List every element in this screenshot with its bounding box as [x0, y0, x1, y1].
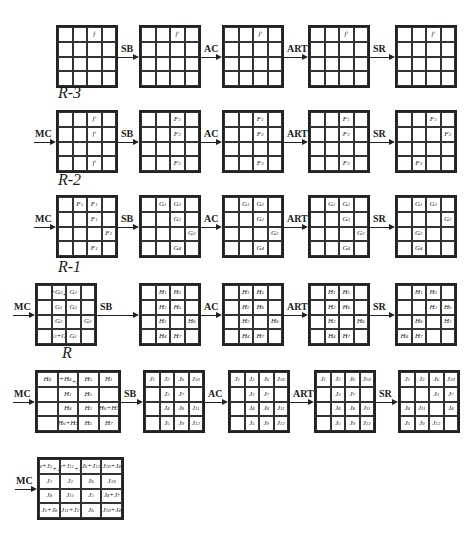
state-cell — [253, 42, 268, 57]
state-cell: F3 — [339, 156, 354, 171]
state-cell: f' — [87, 156, 102, 171]
state-cell — [185, 112, 200, 127]
state-cell — [310, 329, 325, 344]
state-cell — [102, 57, 117, 72]
state-matrix: H4H7+H8 +H3H5H1H1H5H8H2H6+H3H6+H2H5H7 — [35, 370, 121, 433]
state-cell — [310, 57, 325, 72]
state-cell — [310, 27, 325, 42]
state-matrix: f'f'f' — [56, 110, 118, 173]
state-cell — [239, 71, 254, 86]
state-cell: J4 — [245, 402, 260, 417]
state-cell: F3 — [170, 156, 185, 171]
state-cell — [412, 212, 427, 227]
state-cell — [397, 127, 412, 142]
state-cell: G2 — [339, 197, 354, 212]
state-cell — [141, 127, 156, 142]
state-cell — [268, 300, 283, 315]
state-cell — [145, 416, 160, 431]
state-cell — [325, 42, 340, 57]
operation-label-ac: AC — [208, 388, 222, 399]
state-cell: H8 — [58, 402, 79, 417]
state-cell — [87, 71, 102, 86]
transition-arrow — [118, 142, 134, 144]
state-cell: G3 — [52, 315, 67, 330]
state-cell: J5 — [160, 416, 175, 431]
state-cell: J11+J2 — [60, 503, 81, 518]
state-cell: F1 — [253, 112, 268, 127]
state-cell: H2 — [426, 300, 441, 315]
state-cell — [441, 197, 456, 212]
state-cell — [141, 241, 156, 256]
state-cell — [185, 300, 200, 315]
state-cell — [274, 387, 289, 402]
state-cell — [316, 416, 331, 431]
state-cell — [441, 285, 456, 300]
state-cell — [185, 27, 200, 42]
state-cell — [37, 315, 52, 330]
state-cell — [400, 387, 415, 402]
state-cell — [37, 416, 58, 431]
transition-arrow — [121, 402, 138, 404]
state-cell: J6 — [81, 503, 102, 518]
state-cell: J11 — [60, 489, 81, 504]
operation-label-mc: MC — [14, 301, 31, 312]
state-cell: H1 — [239, 285, 254, 300]
state-cell: J7 — [345, 387, 360, 402]
state-cell — [310, 227, 325, 242]
state-cell — [224, 197, 239, 212]
state-cell: J9 — [415, 416, 430, 431]
state-cell — [426, 42, 441, 57]
state-cell — [426, 71, 441, 86]
state-cell — [325, 241, 340, 256]
state-cell — [354, 27, 369, 42]
state-cell: F1 — [339, 112, 354, 127]
state-cell: F1 — [170, 112, 185, 127]
state-cell: J4 — [331, 402, 346, 417]
state-cell: J9 — [345, 416, 360, 431]
state-cell — [141, 227, 156, 242]
state-matrix: G1G2G3G3G4 — [139, 195, 201, 258]
state-cell — [339, 227, 354, 242]
state-cell: J8 — [400, 402, 415, 417]
state-cell: F1 — [426, 112, 441, 127]
state-cell: J6 — [259, 372, 274, 387]
state-cell — [141, 27, 156, 42]
state-cell — [397, 71, 412, 86]
operation-label-sr: SR — [373, 301, 386, 312]
state-cell — [185, 212, 200, 227]
operation-label-ac: AC — [204, 301, 218, 312]
state-cell — [141, 285, 156, 300]
state-cell: G1 — [325, 197, 340, 212]
state-cell — [310, 241, 325, 256]
state-cell — [268, 197, 283, 212]
operation-label-art: ART — [287, 128, 308, 139]
operation-label-sb: SB — [100, 301, 112, 312]
operation-label-ac: AC — [204, 43, 218, 54]
state-cell — [156, 156, 171, 171]
state-cell: J8 — [345, 402, 360, 417]
state-cell: H8 — [185, 315, 200, 330]
transition-arrow — [284, 315, 303, 317]
state-cell: F1 — [87, 197, 102, 212]
state-cell — [170, 42, 185, 57]
state-cell: H1 — [325, 285, 340, 300]
state-cell — [412, 57, 427, 72]
state-cell — [185, 127, 200, 142]
state-cell: J12 — [429, 416, 444, 431]
transition-arrow — [118, 57, 134, 59]
state-cell — [239, 27, 254, 42]
state-cell: f' — [87, 112, 102, 127]
state-cell — [441, 156, 456, 171]
state-cell: J7 — [174, 387, 189, 402]
state-cell — [325, 27, 340, 42]
mc-arrow — [13, 315, 30, 317]
state-cell — [170, 227, 185, 242]
state-cell — [224, 156, 239, 171]
state-cell — [156, 241, 171, 256]
state-cell: J1 — [39, 474, 60, 489]
state-cell — [310, 285, 325, 300]
state-cell — [58, 156, 73, 171]
state-cell: f' — [170, 27, 185, 42]
state-cell — [268, 156, 283, 171]
state-cell — [224, 227, 239, 242]
